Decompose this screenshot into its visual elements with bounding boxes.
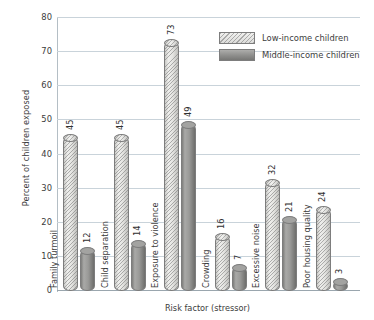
bar-value-label: 21 [284,202,294,212]
bar-value-label: 24 [317,192,327,202]
bar [282,219,297,291]
x-axis-category-label: Exposure to violence [150,203,160,289]
y-axis-tick-label: 80 [41,12,52,22]
bar [215,236,230,291]
y-axis-tick-label: 70 [41,46,52,56]
bar [164,42,179,291]
bar-top-ellipse [282,216,297,224]
bar [333,281,348,291]
y-axis-tick-label: 50 [41,114,52,124]
x-axis-title: Risk factor (stressor) [55,303,360,313]
y-axis-title: Percent of children exposed [21,43,31,253]
bar-top-ellipse [131,240,146,248]
bar [80,250,95,291]
x-axis-category-label: Child separation [100,221,110,288]
bar-value-label: 73 [166,24,176,34]
bar-value-label: 14 [132,226,142,236]
bar-top-ellipse [232,264,247,272]
x-axis-category-label: Family turmoil [49,230,59,288]
x-axis-category-label: Excessive noise [251,224,261,288]
y-axis-tick-label: 20 [41,217,52,227]
bar [316,209,331,291]
bar-top-ellipse [333,278,348,286]
y-axis-tick-label: 60 [41,80,52,90]
bar [265,182,280,291]
x-axis-category-label: Crowding [201,250,211,288]
legend-item-low-income: Low-income children [219,29,360,46]
bar [131,243,146,291]
bar-value-label: 32 [267,164,277,174]
bar [181,124,196,291]
legend-swatch-low-income [219,32,255,44]
bar-top-ellipse [63,134,78,142]
legend-label-middle-income: Middle-income children [262,50,360,60]
bar-value-label: 3 [334,269,344,274]
bar-top-ellipse [181,121,196,129]
x-axis-category-label: Poor housing quality [302,204,312,288]
bar-value-label: 49 [183,106,193,116]
bar [114,137,129,291]
bar-value-label: 12 [82,233,92,243]
legend-swatch-middle-income [219,49,255,61]
bar-value-label: 16 [216,219,226,229]
y-axis-tick-label: 40 [41,149,52,159]
bar-top-ellipse [80,247,95,255]
legend: Low-income children Middle-income childr… [219,29,360,63]
legend-item-middle-income: Middle-income children [219,46,360,63]
bar-value-label: 45 [65,120,75,130]
bar [63,137,78,291]
legend-label-low-income: Low-income children [262,33,348,43]
bar [232,267,247,291]
bar-top-ellipse [316,206,331,214]
bar-value-label: 7 [233,255,243,260]
y-axis-tick-label: 30 [41,183,52,193]
bar-top-ellipse [265,179,280,187]
bar-chart: Percent of children exposed 010203040506… [0,0,374,320]
bar-top-ellipse [114,134,129,142]
bar-top-ellipse [164,39,179,47]
bar-value-label: 45 [115,120,125,130]
bar-top-ellipse [215,233,230,241]
